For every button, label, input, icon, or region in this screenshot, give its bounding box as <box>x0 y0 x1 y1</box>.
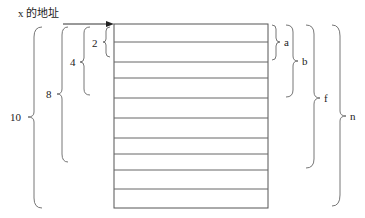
brace-a <box>272 25 280 60</box>
brace-label-4: 4 <box>70 56 76 68</box>
brace-label-a: a <box>284 36 289 48</box>
brace-label-2: 2 <box>92 37 98 49</box>
brace-label-n: n <box>350 110 356 122</box>
brace-label-f: f <box>324 92 328 104</box>
memory-block <box>114 24 268 208</box>
brace-10 <box>28 27 42 208</box>
arrow-head-icon <box>106 21 114 27</box>
brace-label-8: 8 <box>46 88 52 100</box>
brace-8 <box>57 27 68 162</box>
brace-f <box>306 25 320 168</box>
brace-label-10: 10 <box>10 111 22 123</box>
row-dividers <box>114 42 268 189</box>
pointer-label: x 的地址 <box>18 6 59 19</box>
brace-n <box>332 25 346 206</box>
right-braces <box>272 25 346 206</box>
memory-diagram: x 的地址 2 4 8 10 a b f n <box>0 0 365 218</box>
brace-label-b: b <box>302 55 308 67</box>
brace-2 <box>103 27 110 57</box>
brace-4 <box>80 27 90 95</box>
left-braces <box>28 27 110 208</box>
